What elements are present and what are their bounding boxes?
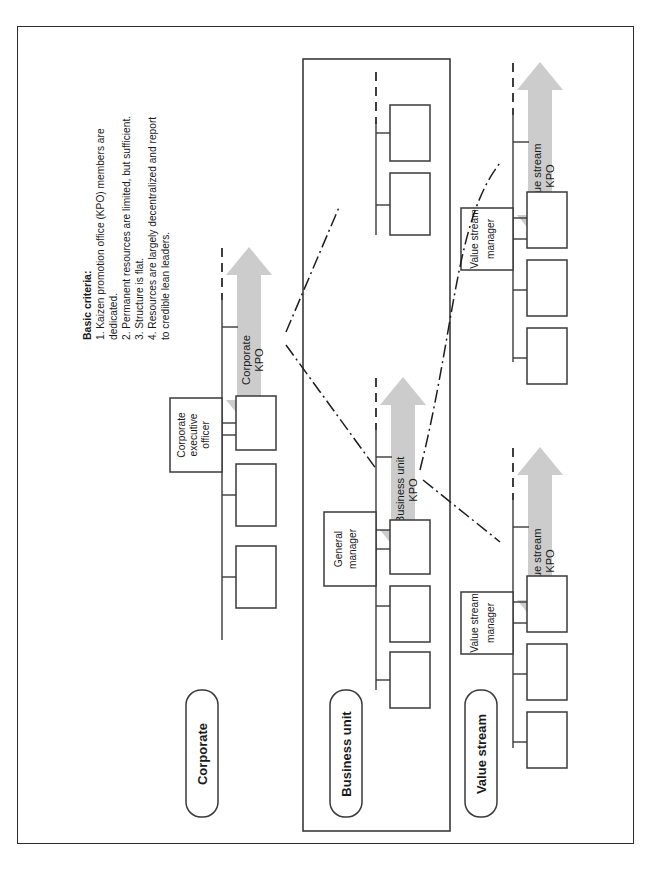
role-line-2: manager <box>485 218 496 259</box>
dashdot-link-corporate-to-bu-upper <box>286 205 340 332</box>
criteria-item-4: 4. Resources are largely decentralized a… <box>147 117 158 340</box>
figure-page: Corporate Business unit Value stream Bas… <box>0 0 653 870</box>
org-box-bu-upper-1 <box>376 105 430 161</box>
role-line-2: manager <box>485 602 496 643</box>
kpo-label-corporate-line2: KPO <box>253 348 265 372</box>
org-box-bu-3 <box>376 652 430 708</box>
kpo-label-bu-line2: KPO <box>407 478 419 502</box>
row-pill-business-unit: Business unit <box>330 690 362 817</box>
criteria-item-2: 2. Permanent resources are limited, but … <box>121 116 132 340</box>
role-line-1: Value stream <box>469 593 480 652</box>
kpo-label-vs-top-line2: KPO <box>544 164 556 188</box>
criteria-item-3: 3. Structure is flat. <box>134 258 145 340</box>
dashdot-link-bu-to-vs-bottom <box>423 480 500 542</box>
org-box-vs-bot-3 <box>513 712 567 768</box>
role-line-2: manager <box>347 528 358 569</box>
basic-criteria-block: Basic criteria: 1. Kaizen promotion offi… <box>81 116 171 340</box>
role-box-general-manager: General manager <box>324 512 376 586</box>
org-box-vs-top-3 <box>513 328 567 384</box>
org-box-vs-top-2 <box>513 260 567 316</box>
diagram-canvas: Corporate Business unit Value stream Bas… <box>0 0 653 870</box>
row-label-business-unit: Business unit <box>339 711 354 797</box>
org-box-bu-2 <box>376 586 430 642</box>
org-box-corporate-2 <box>222 464 276 526</box>
role-box-value-stream-manager-bottom: Value stream manager <box>461 592 513 654</box>
row-pill-value-stream: Value stream <box>465 690 497 817</box>
org-box-corporate-3 <box>222 546 276 608</box>
role-box-corporate-executive-officer: Corporate executive officer <box>170 398 222 472</box>
row-label-corporate: Corporate <box>195 723 210 785</box>
criteria-item-1: 1. Kaizen promotion office (KPO) members… <box>95 128 106 340</box>
dashdot-link-corporate-to-bu-kpo <box>286 345 377 470</box>
criteria-item-4b: to credible lean leaders. <box>160 232 171 340</box>
role-box-value-stream-manager-top: Value stream manager <box>461 208 513 270</box>
role-line-1: Corporate <box>176 412 187 458</box>
role-line-2: executive <box>188 413 199 456</box>
role-line-1: General <box>333 531 344 567</box>
role-line-1: Value stream <box>469 209 480 268</box>
criteria-item-1b: dedicated. <box>108 293 119 340</box>
row-label-value-stream: Value stream <box>474 714 489 794</box>
org-box-bu-1 <box>376 520 430 574</box>
role-line-3: officer <box>200 421 211 449</box>
criteria-heading: Basic criteria: <box>81 271 93 340</box>
row-pill-corporate: Corporate <box>186 690 218 817</box>
org-box-vs-bot-2 <box>513 644 567 700</box>
org-box-bu-upper-2 <box>376 173 430 235</box>
kpo-label-vs-bot-line2: KPO <box>544 549 556 573</box>
kpo-label-corporate-line1: Corporate <box>240 335 252 385</box>
kpo-label-bu-line1: Business unit <box>394 456 406 523</box>
